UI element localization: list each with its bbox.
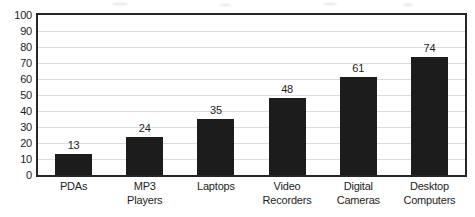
- x-axis-category-line: Video: [263, 180, 312, 194]
- x-axis-category-line: Recorders: [263, 194, 312, 208]
- y-axis-tick-label: 60: [0, 74, 32, 85]
- bar: [55, 154, 92, 175]
- y-axis-tick-label: 0: [0, 170, 32, 181]
- x-axis-category-line: Laptops: [197, 180, 235, 194]
- bar: [126, 137, 163, 175]
- bar: [340, 77, 377, 175]
- x-axis-category-line: Desktop: [403, 180, 455, 194]
- bar: [269, 98, 306, 175]
- y-axis-tick-label: 90: [0, 26, 32, 37]
- y-axis-tick-label: 70: [0, 58, 32, 69]
- x-axis-category-line: Cameras: [337, 194, 380, 208]
- x-axis-category-label: MP3Players: [127, 180, 162, 207]
- y-axis: 1009080706050403020100: [0, 13, 32, 177]
- y-axis-tick-label: 100: [0, 10, 32, 21]
- x-axis-category-line: Computers: [403, 194, 455, 208]
- x-axis-category-label: PDAs: [60, 180, 87, 194]
- bar: [197, 119, 234, 175]
- scan-artifact-overlay: [0, 0, 475, 11]
- y-axis-tick-label: 80: [0, 42, 32, 53]
- y-axis-tick-label: 20: [0, 138, 32, 149]
- x-axis-category-label: DigitalCameras: [337, 180, 380, 207]
- x-axis-category-label: DesktopComputers: [403, 180, 455, 207]
- bars-layer: [38, 15, 465, 175]
- y-axis-tick-label: 40: [0, 106, 32, 117]
- x-axis-category-label: Laptops: [197, 180, 235, 194]
- x-axis-category-line: Digital: [337, 180, 380, 194]
- y-axis-tick-label: 30: [0, 122, 32, 133]
- bar: [411, 57, 448, 175]
- plot-area: [36, 13, 467, 177]
- x-axis-category-label: VideoRecorders: [263, 180, 312, 207]
- x-axis-category-line: MP3: [127, 180, 162, 194]
- bar-chart: 1009080706050403020100 132435486174 PDAs…: [0, 0, 475, 217]
- x-axis-category-line: PDAs: [60, 180, 87, 194]
- x-axis-category-line: Players: [127, 194, 162, 208]
- y-axis-tick-label: 50: [0, 90, 32, 101]
- x-axis: PDAsMP3PlayersLaptopsVideoRecordersDigit…: [36, 180, 467, 217]
- y-axis-tick-label: 10: [0, 154, 32, 165]
